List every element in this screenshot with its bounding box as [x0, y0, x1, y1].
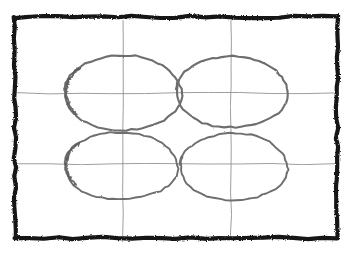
page-background	[0, 0, 354, 253]
sketch-drawing	[0, 0, 354, 253]
vertical-guide-left	[123, 20, 124, 235]
sketch-canvas: Hand-drawn sketch of four ovals in a bor…	[0, 0, 354, 253]
